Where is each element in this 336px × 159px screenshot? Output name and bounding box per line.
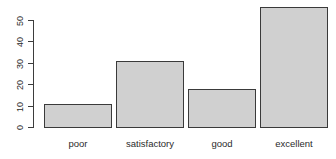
bar-chart: 50 40 30 20 10 0 poor satisfactory good …	[0, 0, 336, 159]
x-axis-label-good: good	[188, 139, 256, 149]
bar-good	[188, 89, 256, 128]
x-axis-label-satisfactory: satisfactory	[116, 139, 184, 149]
plot-area	[0, 0, 336, 128]
x-axis-label-excellent: excellent	[260, 139, 328, 149]
bar-poor	[44, 104, 112, 128]
bar-satisfactory	[116, 61, 184, 128]
x-axis-label-poor: poor	[44, 139, 112, 149]
bar-excellent	[260, 7, 328, 128]
